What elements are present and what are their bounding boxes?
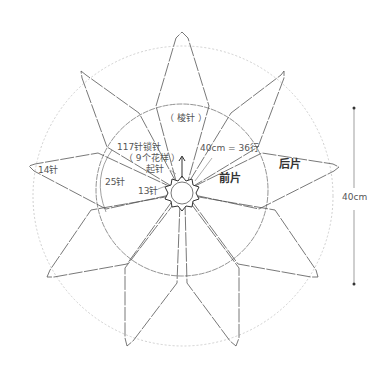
label-back: 后片 <box>279 159 301 170</box>
dimension-end-bottom <box>353 283 356 286</box>
label-rows: 40cm = 36行 <box>200 144 259 153</box>
leader-rows <box>195 158 212 181</box>
center-hole <box>171 182 193 204</box>
knitting-pattern-diagram <box>0 0 385 373</box>
label-25-stitches: 25针 <box>105 178 125 187</box>
label-14-stitches: 14针 <box>38 166 58 175</box>
label-cast-on-3: 起针 <box>146 165 164 174</box>
label-cast-on-1: 117针锁针 <box>117 143 161 152</box>
dimension-end-top <box>353 107 356 110</box>
label-13-stitches: 13针 <box>138 187 158 196</box>
label-cast-on-2: （ 9个花样 ） <box>124 154 180 163</box>
label-front: 前片 <box>219 173 241 184</box>
label-height: 40cm <box>342 193 367 202</box>
label-garter: （ 棱针 ） <box>165 114 207 123</box>
